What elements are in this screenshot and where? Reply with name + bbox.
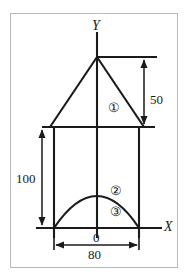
origin-label: 0 [93, 231, 100, 244]
x-axis-label: X [164, 220, 173, 234]
dimension-label-apex-height: 50 [150, 93, 163, 106]
dimension-label-base-width: 80 [88, 248, 101, 261]
triangle-right-edge [97, 57, 144, 127]
dimension-50-group [97, 57, 157, 124]
outline-group [42, 57, 155, 238]
region-label-three: ③ [110, 205, 122, 218]
dimension-label-body-height: 100 [16, 172, 36, 185]
triangle-left-edge [50, 57, 97, 127]
region-label-one: ① [108, 101, 120, 114]
figure-root: Y X 50 100 0 80 ① ② ③ [0, 0, 189, 277]
y-axis-label: Y [92, 19, 100, 33]
region-label-two: ② [110, 184, 122, 197]
